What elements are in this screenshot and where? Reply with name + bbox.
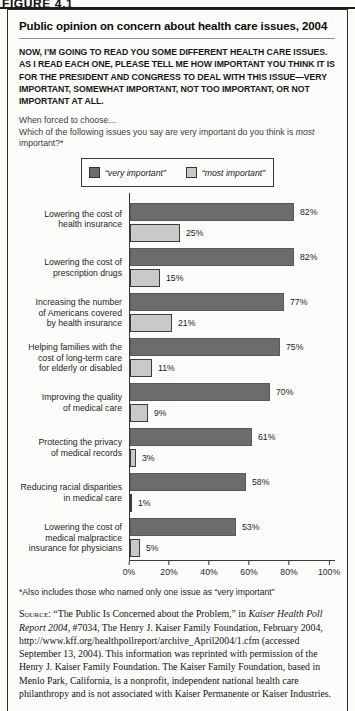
bar-most-important: [130, 539, 140, 557]
bar-most-important: [130, 224, 180, 242]
lead-in-text: When forced to choose...: [19, 115, 335, 125]
chart-legend: “very important”“most important”: [81, 158, 274, 187]
bar-line: 58%: [130, 473, 335, 491]
category-label: Lowering the cost of medical malpractice…: [19, 515, 129, 560]
chart-row: Lowering the cost of prescription drugs8…: [19, 245, 335, 290]
figure-label: FIGURE 4.1: [2, 0, 73, 7]
sub-question-prefix: Which of the following issues you say ar…: [19, 127, 296, 137]
chart-row: Improving the quality of medical care70%…: [19, 380, 335, 425]
bar-line: 21%: [130, 314, 335, 332]
plot-area: 77%21%: [129, 290, 335, 335]
bar-line: 53%: [130, 518, 335, 536]
bar-most-important: [130, 449, 136, 467]
value-label: 75%: [286, 342, 303, 352]
bar-line: 3%: [130, 449, 335, 467]
bar-line: 82%: [130, 203, 335, 221]
sub-question-italic: most: [296, 127, 315, 137]
category-label: Lowering the cost of prescription drugs: [19, 245, 129, 290]
legend-label: “very important”: [105, 168, 166, 178]
value-label: 25%: [186, 228, 203, 238]
tick-mark-icon: [168, 561, 169, 565]
value-label: 5%: [146, 543, 159, 553]
bar-very-important: [130, 248, 294, 266]
bar-very-important: [130, 428, 252, 446]
category-label-text: Lowering the cost of health insurance: [44, 209, 122, 230]
plot-area: 53%5%: [129, 515, 335, 560]
bar-line: 61%: [130, 428, 335, 446]
chart-row: Helping families with the cost of long-t…: [19, 335, 335, 380]
tick-mark-icon: [248, 561, 249, 565]
x-tick-label: 60%: [240, 567, 257, 577]
plot-area: 58%1%: [129, 470, 335, 515]
bar-line: 5%: [130, 539, 335, 557]
bar-very-important: [130, 338, 280, 356]
x-axis-tick: 100%: [318, 561, 340, 577]
scanned-figure-page: FIGURE 4.1 Public opinion on concern abo…: [0, 0, 355, 711]
value-label: 1%: [138, 498, 151, 508]
figure-panel: Public opinion on concern about health c…: [7, 9, 348, 711]
category-label: Lowering the cost of health insurance: [19, 193, 129, 245]
x-tick-label: 100%: [318, 567, 340, 577]
x-tick-label: 20%: [160, 567, 177, 577]
bar-very-important: [130, 518, 236, 536]
bar-line: 70%: [130, 383, 335, 401]
x-axis-tick: 60%: [240, 561, 257, 577]
value-label: 21%: [178, 318, 195, 328]
category-label-text: Protecting the privacy of medical record…: [38, 437, 122, 458]
bar-line: 11%: [130, 359, 335, 377]
legend-swatch-very-important: [89, 167, 100, 178]
plot-area: 82%15%: [129, 245, 335, 290]
bar-very-important: [130, 203, 294, 221]
bar-most-important: [130, 269, 160, 287]
category-label: Improving the quality of medical care: [19, 380, 129, 425]
x-axis: 0%20%40%60%80%100%: [129, 560, 335, 579]
x-axis-spacer: [19, 560, 129, 579]
plot-area: 75%11%: [129, 335, 335, 380]
source-citation: Source: “The Public Is Concerned about t…: [19, 607, 335, 699]
tick-mark-icon: [328, 561, 329, 565]
value-label: 9%: [154, 408, 167, 418]
bar-most-important: [130, 494, 132, 512]
bar-line: 82%: [130, 248, 335, 266]
bar-very-important: [130, 293, 284, 311]
source-segment-normal: , #7034, The Henry J. Kaiser Family Foun…: [19, 622, 331, 699]
chart-row: Increasing the number of Americans cover…: [19, 290, 335, 335]
x-axis-tick: 80%: [280, 561, 297, 577]
category-label-text: Helping families with the cost of long-t…: [28, 342, 122, 374]
value-label: 70%: [276, 387, 293, 397]
bar-most-important: [130, 359, 152, 377]
value-label: 82%: [300, 252, 317, 262]
bar-line: 75%: [130, 338, 335, 356]
x-tick-label: 80%: [280, 567, 297, 577]
bar-most-important: [130, 314, 172, 332]
bar-chart: Lowering the cost of health insurance82%…: [19, 193, 335, 579]
category-label-text: Increasing the number of Americans cover…: [36, 297, 122, 329]
category-label-text: Improving the quality of medical care: [42, 392, 122, 413]
category-label: Protecting the privacy of medical record…: [19, 425, 129, 470]
x-tick-label: 0%: [123, 567, 136, 577]
x-axis-row: 0%20%40%60%80%100%: [19, 560, 335, 579]
footnote-text: *Also includes those who named only one …: [19, 587, 335, 597]
source-segment-smallcaps: Source:: [19, 608, 51, 619]
figure-label-clip: FIGURE 4.1: [2, 0, 355, 7]
x-axis-tick: 20%: [160, 561, 177, 577]
x-axis-tick: 40%: [200, 561, 217, 577]
legend-item: “very important”: [89, 167, 166, 178]
legend-label: “most important”: [202, 168, 265, 178]
sub-question-suffix: important?*: [19, 138, 63, 148]
bar-line: 77%: [130, 293, 335, 311]
category-label-text: Lowering the cost of medical malpractice…: [29, 522, 122, 554]
value-label: 53%: [242, 522, 259, 532]
value-label: 82%: [300, 207, 317, 217]
plot-area: 82%25%: [129, 193, 335, 245]
tick-mark-icon: [288, 561, 289, 565]
legend-item: “most important”: [186, 167, 265, 178]
category-label: Helping families with the cost of long-t…: [19, 335, 129, 380]
chart-row: Lowering the cost of medical malpractice…: [19, 515, 335, 560]
sub-question-text: Which of the following issues you say ar…: [19, 127, 335, 149]
source-segment-normal: “The Public Is Concerned about the Probl…: [51, 608, 249, 619]
value-label: 58%: [252, 477, 269, 487]
bar-line: 15%: [130, 269, 335, 287]
tick-mark-icon: [208, 561, 209, 565]
category-label-text: Lowering the cost of prescription drugs: [44, 257, 122, 278]
